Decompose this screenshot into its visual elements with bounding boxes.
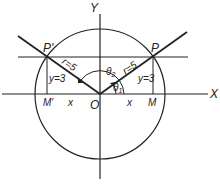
trig-diagram: X Y O P P' M M' x x r=5 r=5 y=3 y=3 θ1 θ… (0, 0, 220, 185)
radius-label-p: r=5 (120, 59, 139, 77)
terminal-side-p-prime (18, 36, 100, 94)
x-axis-label: X (209, 87, 219, 101)
x-length-right-label: x (126, 97, 133, 108)
foot-m-label: M (148, 97, 157, 108)
point-p-label: P (151, 41, 159, 55)
angle-theta2-label: θ2 (106, 66, 115, 78)
radius-label-p-prime: r=5 (60, 56, 79, 74)
origin-label: O (90, 98, 99, 112)
y-length-label-p: y=3 (137, 73, 155, 84)
y-length-label-p-prime: y=3 (48, 73, 66, 84)
point-p-prime-label: P' (43, 41, 54, 55)
x-length-left-label: x (67, 97, 74, 108)
foot-m-prime-label: M' (43, 97, 54, 108)
y-axis-label: Y (90, 1, 99, 15)
